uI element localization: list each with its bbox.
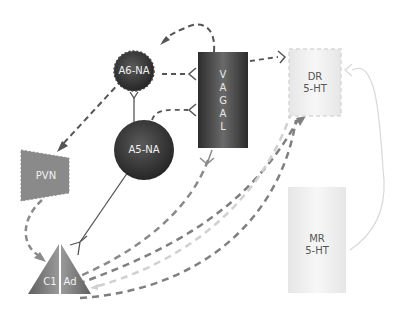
a6-synapse [130,92,138,98]
dr-to-mr-solid [350,68,384,250]
vagal-label-v: V [216,69,230,82]
vagal-label-a2: A [216,108,230,121]
c1-label: C1 [42,276,58,288]
vagal-bottom-synapse [200,150,214,164]
pvn-label: PVN [28,170,64,182]
arrowhead-to-pvn [57,141,68,152]
vagal-label-a1: A [216,82,230,95]
vagal-to-dr-dashed [250,57,278,61]
diagram-canvas [0,0,396,314]
vagal-a5-synapse [189,104,196,116]
mr-label-line1: MR [297,233,337,245]
vagal-to-a6-curve [163,25,214,52]
dr-vagal-synapse [278,51,285,63]
mr-label-line2: 5-HT [297,245,337,257]
arrowhead-to-a6 [160,36,170,45]
ad-label: Ad [61,276,79,288]
vagal-to-a5-dashed [152,110,188,120]
a6-to-pvn-dashed [62,80,122,145]
vagal-label-l: L [216,121,230,134]
arrowhead-to-ad-light [90,284,98,290]
arrowhead-to-dr [296,116,306,126]
a6-na-label: A6-NA [114,65,154,77]
dr-label-line2: 5-HT [295,83,335,95]
pvn-to-c1-dashed [26,200,42,255]
vagal-a6-synapse [189,68,196,80]
a5-to-ad-solid [80,172,128,242]
ad-synapse [70,236,87,255]
dr-synapse [345,64,352,76]
dr-label-line1: DR [295,71,335,83]
vagal-label-g: G [216,95,230,108]
a5-na-label: A5-NA [124,144,164,156]
